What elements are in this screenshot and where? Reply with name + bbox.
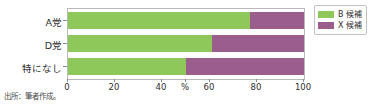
legend-swatch-icon bbox=[318, 11, 334, 18]
legend: B 候補 X 候補 bbox=[314, 5, 367, 35]
bar-segment-b-candidate bbox=[68, 35, 212, 52]
legend-item-x-candidate: X 候補 bbox=[318, 20, 362, 30]
y-axis-label-2: 特になし bbox=[0, 63, 62, 74]
bar-row bbox=[68, 58, 304, 75]
x-axis-label-0: 0 bbox=[47, 82, 87, 92]
legend-swatch-icon bbox=[318, 22, 334, 29]
bar-segment-x-candidate bbox=[186, 58, 304, 75]
y-axis-label-1: D党 bbox=[0, 40, 62, 51]
plot-area bbox=[67, 8, 305, 80]
x-axis-label-60: 60 bbox=[189, 82, 229, 92]
bar-segment-b-candidate bbox=[68, 12, 250, 29]
bar-segment-x-candidate bbox=[250, 12, 304, 29]
y-axis-label-0: A党 bbox=[0, 17, 62, 28]
source-note: 出所：筆者作成。 bbox=[4, 92, 60, 102]
stacked-bar-chart-figure: A党 D党 特になし 0 20 40 % 60 80 100 B 候補 bbox=[0, 0, 386, 106]
bar-segment-x-candidate bbox=[212, 35, 304, 52]
bar-row bbox=[68, 35, 304, 52]
x-axis-label-80: 80 bbox=[236, 82, 276, 92]
legend-item-label: B 候補 bbox=[338, 10, 362, 19]
bar-segment-b-candidate bbox=[68, 58, 186, 75]
legend-item-b-candidate: B 候補 bbox=[318, 10, 362, 20]
x-axis-label-20: 20 bbox=[94, 82, 134, 92]
bar-row bbox=[68, 12, 304, 29]
x-axis-label-100: 100 bbox=[283, 82, 323, 92]
legend-item-label: X 候補 bbox=[338, 21, 362, 30]
